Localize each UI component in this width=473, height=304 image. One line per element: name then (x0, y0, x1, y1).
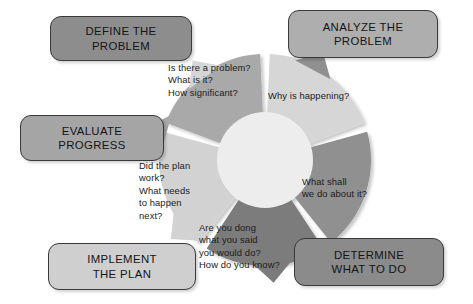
question-text-implement: Are you dong what you said you would do?… (199, 222, 280, 272)
stage-label-determine-what-to-do[interactable]: DETERMINE WHAT TO DO (294, 238, 444, 286)
question-text-define: Is there a problem? What is it? How sign… (168, 62, 251, 99)
stage-label-define-the-problem[interactable]: DEFINE THE PROBLEM (50, 16, 192, 61)
wheel-hub (217, 112, 313, 208)
stage-label-analyze-the-problem[interactable]: ANALYZE THE PROBLEM (288, 10, 438, 58)
diagram-canvas: Is there a problem? What is it? How sign… (0, 0, 473, 304)
question-text-analyze: Why is happening? (268, 90, 349, 102)
stage-label-evaluate-progress[interactable]: EVALUATE PROGRESS (20, 115, 164, 161)
stage-label-implement-the-plan[interactable]: IMPLEMENT THE PLAN (48, 243, 196, 290)
question-text-determine: What shall we do about it? (302, 176, 367, 201)
question-text-evaluate: Did the plan work? What needs to happen … (139, 160, 190, 222)
